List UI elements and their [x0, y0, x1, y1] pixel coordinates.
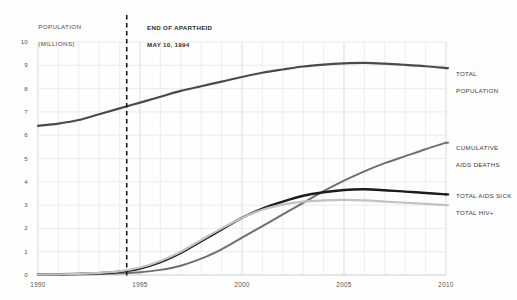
y-tick-label: 2: [8, 224, 28, 231]
y-tick-label: 0: [8, 271, 28, 278]
series-label-line2: POPULATION: [456, 87, 498, 94]
x-tick-label: 2010: [438, 281, 453, 288]
y-axis-title-line2: (MILLIONS): [38, 40, 75, 47]
x-tick-label: 2000: [234, 281, 249, 288]
x-tick-label: 1990: [30, 281, 45, 288]
y-tick-label: 1: [8, 248, 28, 255]
y-tick-label: 8: [8, 85, 28, 92]
y-tick-label: 6: [8, 131, 28, 138]
y-tick-label: 3: [8, 201, 28, 208]
series-label-line1: TOTAL HIV+: [456, 209, 494, 216]
x-tick-label: 1995: [132, 281, 147, 288]
y-tick-label: 5: [8, 155, 28, 162]
series-label-total-hiv-positive: TOTAL HIV+: [448, 201, 494, 226]
series-label-line1: CUMULATIVE: [456, 144, 498, 151]
series-label-line1: TOTAL AIDS SICK: [456, 192, 512, 199]
annotation-end-of-apartheid-label: END OF APARTHEID MAY 10, 1994: [139, 15, 212, 58]
annotation-label-line2: MAY 10, 1994: [147, 41, 189, 48]
y-tick-label: 10: [8, 38, 28, 45]
series-label-line1: TOTAL: [456, 70, 477, 77]
y-axis-title: POPULATION (MILLIONS): [30, 14, 81, 57]
series-label-line2: AIDS DEATHS: [456, 161, 500, 168]
x-tick-label: 2005: [336, 281, 351, 288]
y-tick-label: 7: [8, 108, 28, 115]
annotation-label-line1: END OF APARTHEID: [147, 24, 212, 31]
y-axis-title-line1: POPULATION: [38, 23, 81, 30]
series-label-total-population: TOTAL POPULATION: [448, 62, 499, 104]
chart-container: POPULATION (MILLIONS) END OF APARTHEID M…: [0, 0, 517, 300]
series-lines: [38, 63, 448, 275]
y-tick-label: 4: [8, 178, 28, 185]
series-label-cumulative-aids-deaths: CUMULATIVE AIDS DEATHS: [448, 136, 500, 178]
y-tick-label: 9: [8, 61, 28, 68]
